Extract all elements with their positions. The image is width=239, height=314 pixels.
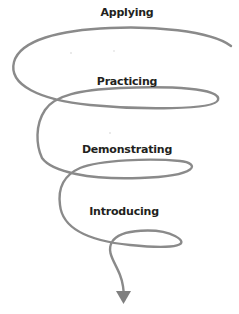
spiral-path-icon bbox=[0, 0, 239, 314]
spiral-diagram: Applying Practicing Demonstrating Introd… bbox=[0, 0, 239, 314]
stage-label-applying: Applying bbox=[100, 6, 153, 19]
stage-label-demonstrating: Demonstrating bbox=[82, 143, 172, 156]
stage-label-introducing: Introducing bbox=[89, 205, 159, 218]
stage-label-practicing: Practicing bbox=[97, 75, 157, 88]
arrow-down-triangle-icon bbox=[116, 291, 131, 304]
